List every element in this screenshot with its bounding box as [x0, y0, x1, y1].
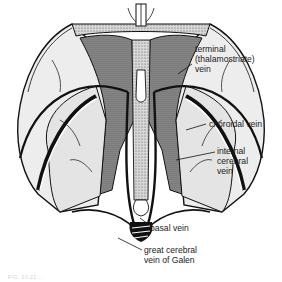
cerebral-veins-illustration	[0, 0, 282, 282]
figure-caption: FIG. 10.21 ...	[8, 274, 44, 280]
left-basal-vein	[72, 210, 134, 228]
label-terminal-vein: terminal (thalamostriate) vein	[195, 44, 255, 74]
septum	[132, 40, 150, 200]
label-basal-vein: basal vein	[150, 223, 189, 233]
label-choroidal-vein: choroidal vein	[209, 119, 262, 129]
label-great-cerebral-vein: great cerebral vein of Galen	[144, 245, 197, 265]
diagram-canvas: terminal (thalamostriate) vein choroidal…	[0, 0, 282, 282]
label-internal-cerebral-vein: internal cerebral vein	[217, 146, 248, 176]
